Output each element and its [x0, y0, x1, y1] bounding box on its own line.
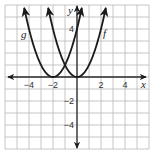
x-tick-label: −2	[48, 80, 58, 90]
x-axis-label: x	[140, 78, 146, 90]
y-tick-label: 4	[69, 24, 74, 34]
x-tick-label: −4	[24, 80, 34, 90]
coordinate-plane: −4−224 4−2−4 x y g f	[0, 0, 151, 156]
curve-label-g: g	[21, 28, 27, 40]
y-tick-label: −2	[64, 96, 74, 106]
x-tick-labels: −4−224	[24, 80, 128, 90]
y-axis-label: y	[67, 4, 73, 16]
x-tick-label: 2	[98, 80, 103, 90]
y-tick-label: −4	[64, 120, 74, 130]
x-tick-label: 4	[122, 80, 127, 90]
